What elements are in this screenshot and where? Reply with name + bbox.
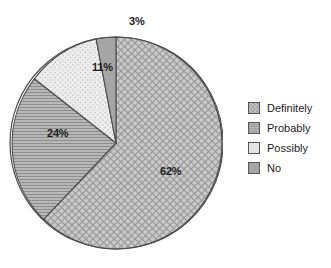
legend-item-probably: Probably (248, 122, 312, 134)
slice-label-no: 3% (129, 16, 145, 27)
legend-label-definitely: Definitely (267, 103, 312, 114)
legend-swatch-no-icon (248, 162, 260, 174)
legend-label-no: No (267, 163, 281, 174)
legend-item-possibly: Possibly (248, 142, 312, 154)
slice-label-definitely: 62% (160, 166, 181, 177)
legend-item-no: No (248, 162, 312, 174)
legend-swatch-probably-icon (248, 122, 260, 134)
pie-svg (9, 36, 223, 250)
legend-label-probably: Probably (267, 123, 310, 134)
pie-plot-area (9, 36, 223, 250)
legend-item-definitely: Definitely (248, 102, 312, 114)
slice-label-possibly: 11% (92, 62, 113, 73)
chart-legend: Definitely Probably Possibly No (248, 102, 312, 174)
legend-label-possibly: Possibly (267, 143, 308, 154)
legend-swatch-definitely-icon (248, 102, 260, 114)
slice-label-probably: 24% (47, 128, 68, 139)
clipped-title-artifact (0, 0, 331, 3)
legend-swatch-possibly-icon (248, 142, 260, 154)
pie-chart-figure: 62% 24% 11% 3% Definitely Probably Possi… (0, 0, 331, 268)
